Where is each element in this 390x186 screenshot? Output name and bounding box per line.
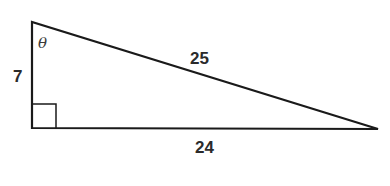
angle-theta-label: θ <box>38 34 47 52</box>
triangle-diagram: θ 7 25 24 <box>0 0 390 186</box>
hypotenuse-label: 25 <box>190 49 209 68</box>
right-angle-marker <box>32 104 56 128</box>
right-triangle <box>32 22 378 129</box>
horizontal-leg-label: 24 <box>195 138 214 157</box>
vertical-leg-label: 7 <box>13 67 22 86</box>
